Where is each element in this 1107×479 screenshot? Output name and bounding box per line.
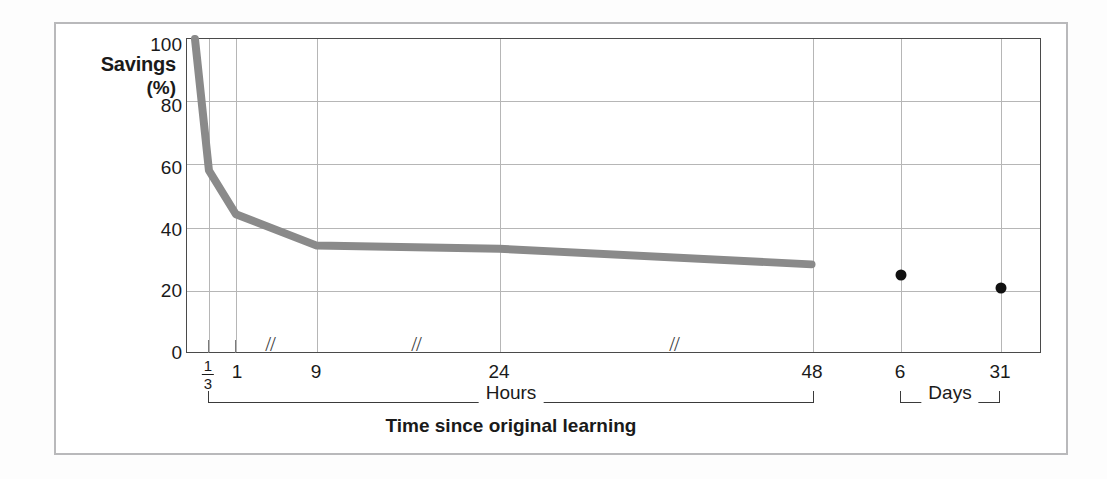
x-tick-label-6-days: 6 <box>895 361 906 383</box>
axis-break-mark-1: // <box>265 332 275 357</box>
y-tick-label-0: 0 <box>140 342 182 364</box>
x-tick-mark-third <box>208 340 209 353</box>
y-tick-label-60: 60 <box>140 157 182 179</box>
y-tick-label-100: 100 <box>140 34 182 56</box>
x-tick-label-48: 48 <box>801 361 822 383</box>
days-bracket-label: Days <box>921 382 978 404</box>
x-tick-label-third: 1 3 <box>202 358 214 391</box>
fraction-one-third: 1 3 <box>202 358 214 391</box>
fraction-denominator: 3 <box>202 375 214 391</box>
savings-curve <box>187 39 1040 352</box>
x-tick-label-31-days: 31 <box>989 361 1010 383</box>
forgetting-curve-figure: Savings (%) 100 80 60 40 20 0 1 <box>0 0 1107 479</box>
y-tick-label-40: 40 <box>140 219 182 241</box>
x-tick-label-1: 1 <box>232 361 243 383</box>
y-tick-label-80: 80 <box>140 95 182 117</box>
x-axis-caption: Time since original learning <box>386 415 637 437</box>
y-axis-title: Savings (%) <box>58 52 176 100</box>
plot-area <box>186 38 1041 353</box>
y-tick-label-20: 20 <box>140 280 182 302</box>
hours-bracket-label: Hours <box>479 382 544 404</box>
x-tick-mark-1 <box>235 340 236 353</box>
axis-break-mark-2: // <box>411 332 421 357</box>
data-point-6-days <box>896 270 907 281</box>
data-point-31-days <box>996 282 1007 293</box>
x-tick-label-9: 9 <box>311 361 322 383</box>
fraction-numerator: 1 <box>202 358 214 375</box>
x-tick-label-24: 24 <box>488 361 509 383</box>
axis-break-mark-3: // <box>669 332 679 357</box>
